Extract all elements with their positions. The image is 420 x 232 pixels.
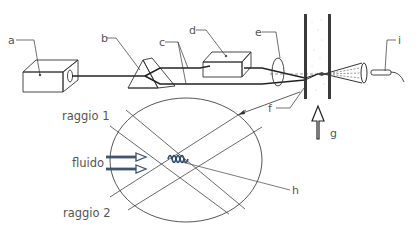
leader-f <box>276 88 304 108</box>
label-c: c <box>159 36 165 49</box>
label-d: d <box>189 24 196 37</box>
label-fluid: fluido <box>72 156 104 170</box>
leader-h <box>182 162 290 190</box>
label-e: e <box>255 26 262 39</box>
beam-1 <box>145 66 210 76</box>
flow-direction-arrow <box>312 106 324 139</box>
laser-source <box>23 60 78 92</box>
bragg-cell <box>203 52 251 77</box>
leader-d <box>196 30 225 55</box>
laser-doppler-diagram: a b c d e f <box>0 0 420 232</box>
channel-walls <box>304 14 331 99</box>
leader-e <box>262 32 280 58</box>
leader-a <box>16 40 40 75</box>
label-a: a <box>8 34 15 47</box>
label-i: i <box>398 34 401 47</box>
photodetector <box>371 70 404 82</box>
label-beam2: raggio 2 <box>63 206 111 220</box>
leader-i <box>385 40 396 71</box>
label-b: b <box>101 32 108 45</box>
label-g: g <box>330 127 337 140</box>
leader-b <box>106 38 140 70</box>
label-f: f <box>268 102 273 115</box>
fluid-arrows <box>106 153 146 173</box>
label-beam1: raggio 1 <box>62 109 110 123</box>
label-h: h <box>292 184 299 197</box>
beam-1-shifted <box>244 68 305 78</box>
